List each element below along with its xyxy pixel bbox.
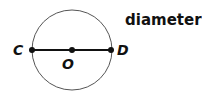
diameter-title: diameter bbox=[125, 11, 202, 29]
label-o: O bbox=[62, 56, 74, 72]
point-d bbox=[108, 47, 114, 53]
point-o bbox=[69, 47, 75, 53]
label-d: D bbox=[117, 42, 129, 58]
point-c bbox=[29, 47, 35, 53]
label-c: C bbox=[13, 42, 23, 58]
